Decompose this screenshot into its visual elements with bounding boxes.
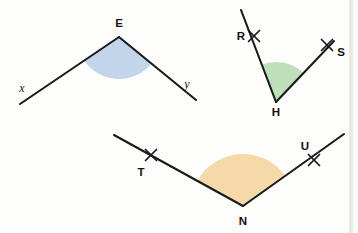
- figure-angle-e: E x y: [18, 17, 196, 104]
- point-label-r: R: [237, 30, 246, 42]
- point-label-t: T: [137, 166, 144, 178]
- ray-label-y: y: [183, 77, 190, 91]
- geometry-figure-canvas: E x y H R S: [0, 0, 358, 233]
- vertex-label-h: H: [272, 106, 280, 118]
- point-label-s: S: [337, 46, 345, 58]
- figure-angle-n: N T U: [114, 134, 344, 227]
- ray-hr: [241, 10, 276, 102]
- vertex-label-e: E: [115, 17, 123, 29]
- figure-angle-h: H R S: [237, 10, 345, 118]
- angle-e-wedge: [84, 37, 151, 79]
- tick-mark-t: [146, 150, 157, 161]
- ray-label-x: x: [18, 81, 25, 95]
- geometry-diagram: E x y H R S: [0, 0, 358, 233]
- angle-n-wedge: [197, 154, 285, 206]
- vertex-label-n: N: [239, 215, 247, 227]
- point-label-u: U: [301, 140, 309, 152]
